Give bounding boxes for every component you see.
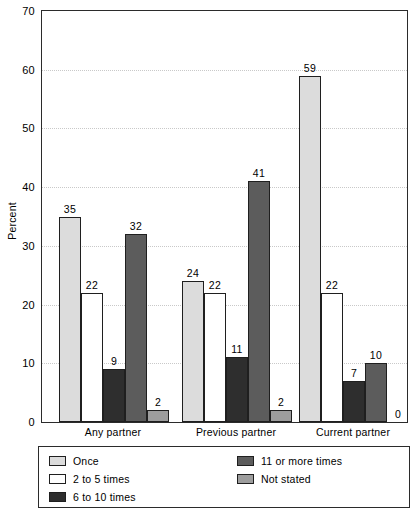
y-axis-title: Percent — [6, 191, 18, 251]
y-tick-label-50: 50 — [22, 123, 35, 133]
bar-rect[interactable] — [321, 293, 343, 422]
y-tick-label-10: 10 — [22, 358, 35, 368]
bar-2-to-5-times[interactable]: 22 — [204, 11, 226, 422]
bar-rect[interactable] — [59, 217, 81, 423]
legend-swatch-icon — [49, 456, 66, 466]
legend-label: 2 to 5 times — [73, 473, 130, 485]
bar-once[interactable]: 59 — [299, 11, 321, 422]
legend-item-11-or-more-times[interactable]: 11 or more times — [237, 452, 342, 469]
bar-2-to-5-times[interactable]: 22 — [321, 11, 343, 422]
bar-rect[interactable] — [343, 381, 365, 422]
legend-label: Not stated — [261, 473, 311, 485]
legend-column-right: 11 or more timesNot stated — [237, 452, 342, 488]
bar-11-or-more-times[interactable]: 32 — [125, 11, 147, 422]
y-tick-label-0: 0 — [29, 417, 35, 427]
bar-group-any-partner: 35229322 — [59, 11, 169, 422]
bar-rect[interactable] — [299, 76, 321, 422]
legend-label: 6 to 10 times — [73, 491, 136, 503]
chart-plot-area: 3522932224221141259227100 — [41, 10, 408, 423]
y-tick-label-20: 20 — [22, 300, 35, 310]
bar-6-to-10-times[interactable]: 11 — [226, 11, 248, 422]
y-tick-label-70: 70 — [22, 6, 35, 16]
bar-not-stated[interactable]: 2 — [147, 11, 169, 422]
bar-not-stated[interactable]: 0 — [387, 11, 409, 422]
bar-rect[interactable] — [125, 234, 147, 422]
bar-rect[interactable] — [182, 281, 204, 422]
bar-rect[interactable] — [226, 357, 248, 422]
legend-item-2-to-5-times[interactable]: 2 to 5 times — [49, 470, 136, 487]
bars-container: 3522932224221141259227100 — [42, 11, 407, 422]
bar-value-label: 0 — [383, 409, 413, 420]
y-axis: Percent 0 10 20 30 40 50 60 70 — [0, 0, 41, 433]
bar-rect[interactable] — [270, 410, 292, 422]
bar-not-stated[interactable]: 2 — [270, 11, 292, 422]
chart-legend: Once2 to 5 times6 to 10 times 11 or more… — [38, 446, 410, 508]
x-tick-label-current-partner: Current partner — [278, 426, 419, 438]
x-axis: Any partner Previous partner Current par… — [41, 424, 408, 442]
legend-column-left: Once2 to 5 times6 to 10 times — [49, 452, 136, 506]
bar-rect[interactable] — [103, 369, 125, 422]
legend-item-once[interactable]: Once — [49, 452, 136, 469]
bar-rect[interactable] — [248, 181, 270, 422]
bar-group-previous-partner: 242211412 — [182, 11, 292, 422]
bar-value-label: 2 — [266, 397, 296, 408]
bar-rect[interactable] — [147, 410, 169, 422]
bar-6-to-10-times[interactable]: 9 — [103, 11, 125, 422]
legend-swatch-icon — [49, 492, 66, 502]
legend-swatch-icon — [49, 474, 66, 484]
y-tick-label-40: 40 — [22, 182, 35, 192]
bar-once[interactable]: 35 — [59, 11, 81, 422]
y-tick-label-30: 30 — [22, 241, 35, 251]
bar-group-current-partner: 59227100 — [299, 11, 409, 422]
bar-value-label: 2 — [143, 397, 173, 408]
bar-rect[interactable] — [204, 293, 226, 422]
legend-label: 11 or more times — [261, 455, 342, 467]
legend-swatch-icon — [237, 456, 254, 466]
bar-once[interactable]: 24 — [182, 11, 204, 422]
legend-label: Once — [73, 455, 99, 467]
legend-item-not-stated[interactable]: Not stated — [237, 470, 342, 487]
y-tick-label-60: 60 — [22, 65, 35, 75]
bar-11-or-more-times[interactable]: 10 — [365, 11, 387, 422]
legend-swatch-icon — [237, 474, 254, 484]
bar-11-or-more-times[interactable]: 41 — [248, 11, 270, 422]
legend-item-6-to-10-times[interactable]: 6 to 10 times — [49, 488, 136, 505]
